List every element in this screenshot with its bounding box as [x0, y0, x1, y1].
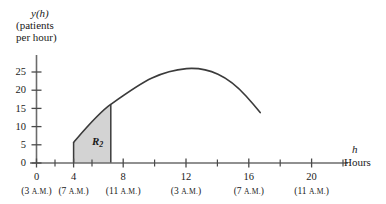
y-tick-label-15: 15: [6, 103, 26, 114]
x-tick-label-20: 20: [299, 171, 325, 182]
x-tick-label-8: 8: [110, 171, 136, 182]
x-time-close-20: ): [326, 186, 329, 196]
x-time-label-12: (3 A.M.): [157, 186, 215, 196]
x-tick-label-4: 4: [61, 171, 87, 182]
x-time-label-16: (7 A.M.): [220, 186, 278, 196]
patient-arrival-rate-figure: y(h) (patients per hour): [0, 0, 386, 204]
x-time-value-16: 7: [237, 186, 242, 196]
x-time-value-12: 3: [174, 186, 179, 196]
region-label-subscript: 2: [99, 140, 103, 149]
x-time-value-8: 11: [109, 186, 118, 196]
x-axis-unit-label: Hours: [344, 157, 371, 169]
x-time-label-8: (11 A.M.): [94, 186, 152, 196]
y-tick-label-10: 10: [6, 121, 26, 132]
x-time-value-0: 3: [25, 186, 30, 196]
x-time-ampm-8: A.M.: [121, 187, 138, 196]
x-tick-label-16: 16: [236, 171, 262, 182]
x-time-value-20: 11: [297, 186, 306, 196]
y-tick-label-5: 5: [6, 139, 26, 150]
x-time-close-16: ): [261, 186, 264, 196]
x-axis-variable-label: h: [352, 144, 358, 156]
x-time-value-4: 7: [62, 186, 67, 196]
y-tick-label-20: 20: [6, 84, 26, 95]
x-time-ampm-20: A.M.: [309, 187, 326, 196]
x-tick-label-0: 0: [24, 171, 50, 182]
region-label-r2: R2: [92, 136, 103, 150]
y-tick-label-25: 25: [6, 66, 26, 77]
x-time-ampm-4: A.M.: [69, 187, 86, 196]
x-time-close-8: ): [137, 186, 140, 196]
y-tick-label-0: 0: [6, 157, 26, 168]
shaded-region-r2: [74, 104, 111, 163]
x-time-close-4: ): [86, 186, 89, 196]
x-time-close-12: ): [198, 186, 201, 196]
x-time-ampm-12: A.M.: [181, 187, 198, 196]
x-time-ampm-16: A.M.: [244, 187, 261, 196]
x-tick-label-12: 12: [173, 171, 199, 182]
x-time-label-20: (11 A.M.): [283, 186, 341, 196]
